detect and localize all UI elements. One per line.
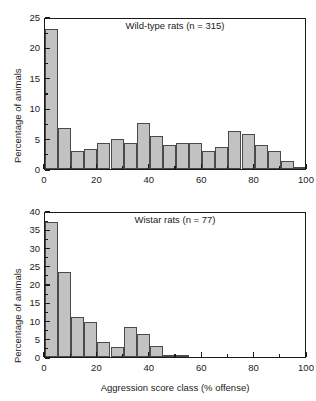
- y-tick-major: [45, 48, 50, 49]
- x-tick-label: 80: [239, 363, 269, 373]
- y-tick-label: 10: [14, 317, 40, 327]
- histogram-bar: [124, 143, 137, 169]
- x-tick-minor: [279, 354, 280, 357]
- histogram-bar: [150, 346, 163, 357]
- y-tick-minor: [45, 348, 48, 349]
- plot-area-bottom: [44, 212, 306, 358]
- x-tick-label: 0: [29, 363, 59, 373]
- x-tick-label: 40: [134, 175, 164, 185]
- bars-bottom: [45, 213, 305, 357]
- x-tick-major: [43, 352, 44, 357]
- histogram-bar: [111, 139, 124, 169]
- x-tick-major: [43, 164, 44, 169]
- x-tick-minor: [174, 354, 175, 357]
- histogram-bar: [255, 145, 268, 169]
- x-tick-major: [201, 164, 202, 169]
- y-tick-major: [45, 284, 50, 285]
- histogram-bar: [71, 317, 84, 357]
- y-tick-label: 40: [14, 207, 40, 217]
- histogram-bar: [281, 161, 294, 169]
- plot-area-top: [44, 18, 306, 170]
- x-tick-label: 100: [291, 363, 316, 373]
- figure-root: Percentage of animals 0510152025 0204060…: [0, 0, 316, 401]
- x-tick-major: [305, 352, 306, 357]
- y-tick-major: [45, 266, 50, 267]
- y-tick-minor: [45, 93, 48, 94]
- x-tick-label: 40: [134, 363, 164, 373]
- histogram-bar: [137, 123, 150, 169]
- y-tick-major: [45, 109, 50, 110]
- histogram-bar: [228, 131, 241, 169]
- x-tick-minor: [174, 166, 175, 169]
- y-tick-minor: [45, 312, 48, 313]
- y-tick-major: [45, 248, 50, 249]
- x-tick-minor: [122, 354, 123, 357]
- histogram-bar: [176, 355, 189, 357]
- x-tick-label: 100: [291, 175, 316, 185]
- y-tick-minor: [45, 124, 48, 125]
- x-tick-major: [96, 352, 97, 357]
- y-tick-major: [45, 169, 50, 170]
- y-tick-label: 5: [14, 135, 40, 145]
- y-tick-label: 20: [14, 43, 40, 53]
- y-tick-label: 35: [14, 225, 40, 235]
- histogram-bar: [45, 29, 58, 169]
- histogram-bar: [58, 128, 71, 169]
- y-tick-label: 20: [14, 280, 40, 290]
- x-tick-major: [96, 164, 97, 169]
- x-tick-minor: [279, 166, 280, 169]
- y-tick-label: 0: [14, 353, 40, 363]
- bars-top: [45, 19, 305, 169]
- y-tick-minor: [45, 257, 48, 258]
- y-tick-major: [45, 78, 50, 79]
- x-tick-minor: [70, 354, 71, 357]
- histogram-bar: [202, 151, 215, 169]
- y-tick-minor: [45, 275, 48, 276]
- x-tick-major: [253, 164, 254, 169]
- x-tick-label: 80: [239, 175, 269, 185]
- histogram-bar: [58, 272, 71, 357]
- y-tick-major: [45, 17, 50, 18]
- y-tick-major: [45, 303, 50, 304]
- x-tick-label: 20: [81, 363, 111, 373]
- x-tick-major: [148, 352, 149, 357]
- y-tick-minor: [45, 63, 48, 64]
- y-tick-label: 15: [14, 74, 40, 84]
- histogram-bar: [45, 222, 58, 357]
- x-tick-minor: [70, 166, 71, 169]
- histogram-bar: [176, 143, 189, 169]
- x-tick-label: 60: [186, 175, 216, 185]
- histogram-bar: [97, 143, 110, 169]
- x-tick-major: [148, 164, 149, 169]
- x-tick-minor: [122, 166, 123, 169]
- y-tick-label: 15: [14, 298, 40, 308]
- histogram-bar: [124, 327, 137, 357]
- y-tick-minor: [45, 154, 48, 155]
- x-tick-major: [305, 164, 306, 169]
- panel-wistar: Percentage of animals 0510152025303540 0…: [0, 196, 316, 401]
- y-tick-label: 0: [14, 165, 40, 175]
- x-tick-label: 60: [186, 363, 216, 373]
- panel-title-top: Wild-type rats (n = 315): [44, 20, 306, 31]
- y-tick-label: 30: [14, 244, 40, 254]
- y-tick-major: [45, 357, 50, 358]
- x-tick-major: [253, 352, 254, 357]
- y-tick-minor: [45, 330, 48, 331]
- x-tick-label: 0: [29, 175, 59, 185]
- histogram-bar: [294, 167, 305, 169]
- y-tick-minor: [45, 239, 48, 240]
- panel-title-bottom: Wistar rats (n = 77): [44, 214, 306, 225]
- y-tick-label: 5: [14, 335, 40, 345]
- y-tick-minor: [45, 294, 48, 295]
- x-tick-minor: [227, 354, 228, 357]
- y-tick-major: [45, 321, 50, 322]
- y-tick-label: 25: [14, 13, 40, 23]
- y-tick-label: 25: [14, 262, 40, 272]
- histogram-bar: [97, 342, 110, 357]
- x-tick-label: 20: [81, 175, 111, 185]
- y-tick-major: [45, 339, 50, 340]
- y-tick-major: [45, 230, 50, 231]
- y-tick-label: 10: [14, 104, 40, 114]
- y-tick-major: [45, 211, 50, 212]
- y-tick-major: [45, 139, 50, 140]
